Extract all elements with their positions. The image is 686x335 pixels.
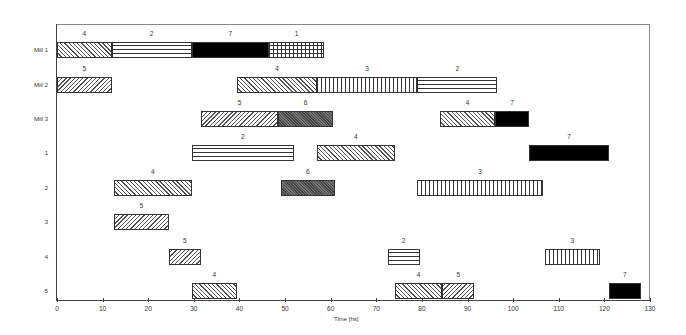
task-bar xyxy=(57,77,112,93)
task-bar xyxy=(609,283,641,299)
task-bar xyxy=(317,145,395,161)
task-bar xyxy=(281,180,336,196)
task-bar xyxy=(57,42,112,58)
task-bar xyxy=(442,283,474,299)
task-bar xyxy=(269,42,324,58)
task-label: 3 xyxy=(478,168,482,175)
task-label: 2 xyxy=(455,65,459,72)
task-label: 7 xyxy=(567,133,571,140)
task-bar xyxy=(440,111,495,127)
x-tick-label: 30 xyxy=(190,305,197,312)
gantt-chart: Mill 1Mill 2Mill 312345 0102030405060708… xyxy=(0,0,686,335)
x-tick-label: 0 xyxy=(55,305,59,312)
task-label: 5 xyxy=(83,65,87,72)
x-tick xyxy=(559,298,560,302)
x-axis-title: Time [hs] xyxy=(334,316,358,322)
x-axis xyxy=(56,300,651,301)
x-tick-label: 70 xyxy=(373,305,380,312)
task-label: 6 xyxy=(304,99,308,106)
row-label: Mill 3 xyxy=(0,116,48,122)
task-label: 2 xyxy=(150,30,154,37)
row-label: Mill 2 xyxy=(0,82,48,88)
task-bar xyxy=(529,145,609,161)
task-label: 2 xyxy=(402,237,406,244)
x-tick xyxy=(285,298,286,302)
x-tick-label: 100 xyxy=(508,305,519,312)
task-label: 4 xyxy=(354,133,358,140)
task-bar xyxy=(114,214,169,230)
row-label: 2 xyxy=(0,185,48,191)
task-bar xyxy=(192,283,238,299)
x-tick-label: 120 xyxy=(599,305,610,312)
row-label: 3 xyxy=(0,219,48,225)
x-tick xyxy=(604,298,605,302)
x-tick xyxy=(331,298,332,302)
x-tick-label: 110 xyxy=(554,305,564,312)
x-tick xyxy=(148,298,149,302)
task-bar xyxy=(278,111,333,127)
task-label: 2 xyxy=(241,133,245,140)
row-label: 4 xyxy=(0,254,48,260)
task-bar xyxy=(495,111,529,127)
task-bar xyxy=(192,42,270,58)
x-tick xyxy=(239,298,240,302)
task-bar xyxy=(417,77,497,93)
task-label: 5 xyxy=(238,99,242,106)
task-label: 4 xyxy=(417,271,421,278)
task-label: 4 xyxy=(466,99,470,106)
task-label: 7 xyxy=(229,30,233,37)
x-tick xyxy=(376,298,377,302)
x-tick xyxy=(103,298,104,302)
task-bar xyxy=(237,77,317,93)
x-tick-label: 10 xyxy=(99,305,106,312)
x-tick-label: 80 xyxy=(418,305,425,312)
x-tick xyxy=(650,298,651,302)
task-label: 4 xyxy=(151,168,155,175)
row-label: 5 xyxy=(0,288,48,294)
task-label: 3 xyxy=(365,65,369,72)
task-bar xyxy=(317,77,417,93)
y-axis xyxy=(56,24,57,301)
x-tick-label: 90 xyxy=(464,305,471,312)
task-bar xyxy=(114,180,192,196)
task-bar xyxy=(112,42,192,58)
task-label: 5 xyxy=(183,237,187,244)
task-label: 5 xyxy=(457,271,461,278)
task-label: 4 xyxy=(83,30,87,37)
task-bar xyxy=(545,249,600,265)
row-label: 1 xyxy=(0,150,48,156)
row-label: Mill 1 xyxy=(0,47,48,53)
task-label: 7 xyxy=(623,271,627,278)
x-tick xyxy=(513,298,514,302)
task-bar xyxy=(395,283,443,299)
x-tick-label: 130 xyxy=(645,305,656,312)
x-tick-label: 40 xyxy=(236,305,243,312)
task-bar xyxy=(388,249,420,265)
task-label: 6 xyxy=(306,168,310,175)
x-tick-label: 50 xyxy=(281,305,288,312)
task-label: 4 xyxy=(213,271,217,278)
task-label: 5 xyxy=(140,202,144,209)
x-tick-label: 60 xyxy=(327,305,334,312)
task-bar xyxy=(192,145,295,161)
x-tick-label: 20 xyxy=(145,305,152,312)
task-label: 1 xyxy=(295,30,299,37)
task-label: 3 xyxy=(571,237,575,244)
task-label: 7 xyxy=(510,99,514,106)
task-label: 4 xyxy=(275,65,279,72)
task-bar xyxy=(169,249,201,265)
task-bar xyxy=(201,111,279,127)
task-bar xyxy=(417,180,542,196)
x-tick xyxy=(57,298,58,302)
